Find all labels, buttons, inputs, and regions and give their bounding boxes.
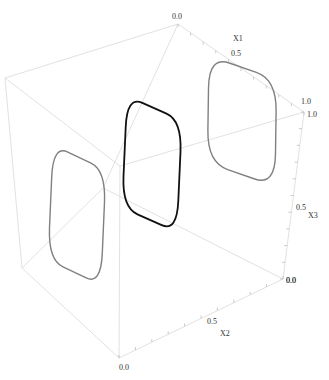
box-edge-topBack-topLeft [5,24,178,78]
x3-tick-0.5: 0.5 [296,203,306,212]
x1-tick-0: 0.0 [172,12,182,21]
x1-tick-1: 1.0 [301,97,311,106]
box-edge-botLeft-topLeft [5,78,22,268]
x3-axis-label: X3 [308,211,318,220]
box-edge-botFront-botLeft [22,268,119,358]
x2-tick-0.5: 0.5 [207,317,217,326]
x1-axis-label: X1 [233,34,243,43]
x3-tick-1: 1.0 [307,110,317,119]
x2-axis-label: X2 [220,329,230,338]
box-edge-botBack-botRight [103,188,283,279]
curve-projection-x1-0 [208,62,276,181]
x2-tick-1: 0.0 [286,276,296,285]
box-edge-botBack-botLeft [22,188,103,268]
curve-trajectory-3d [123,102,180,227]
box-edge-topLeft-topFront [5,78,120,166]
box-edge-topBack-botBack [103,24,178,188]
plot-3d: 0.0 0.5 1.0 X1 1.0 0.5 0.0 X3 0.0 0.5 0.… [0,0,329,380]
x1-tick-0.5: 0.5 [231,49,241,58]
x2-tick-0: 0.0 [119,363,129,372]
curve-projection-x2-0 [49,151,104,279]
curves [49,62,276,279]
axis-ticks [119,24,304,358]
box-edge-topFront-botFront [119,166,120,358]
